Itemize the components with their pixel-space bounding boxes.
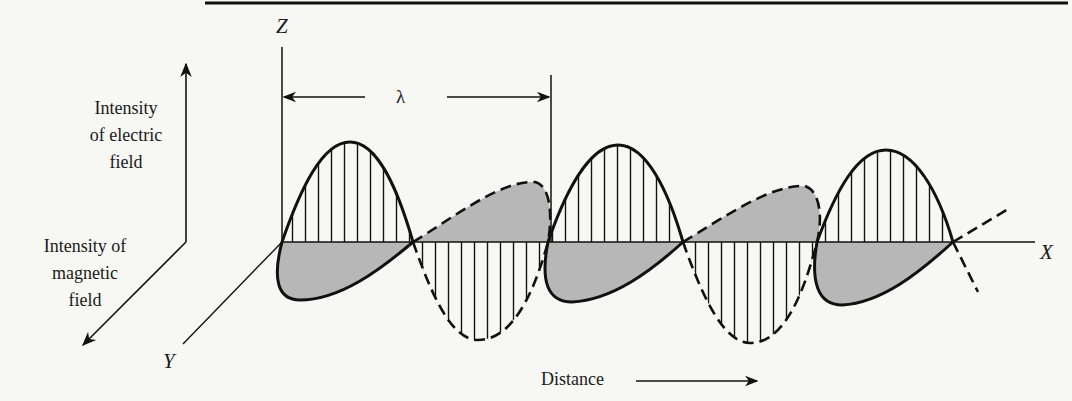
electric-label-line-2: of electric bbox=[76, 122, 176, 149]
electric-label-line-1: Intensity bbox=[76, 95, 176, 122]
magnetic-label-line-1: Intensity of bbox=[14, 233, 156, 260]
magnetic-field-label: Intensity of magnetic field bbox=[14, 233, 156, 314]
y-axis-label: Y bbox=[163, 349, 175, 374]
magnetic-lobe-4 bbox=[683, 186, 820, 242]
diagram-graphics bbox=[0, 0, 1072, 401]
x-axis-label: X bbox=[1040, 240, 1053, 265]
magnetic-lobe-2 bbox=[413, 182, 550, 242]
magnetic-lobe-1 bbox=[277, 242, 413, 300]
magnetic-lobe-5 bbox=[815, 242, 953, 305]
y-axis-line bbox=[183, 242, 282, 344]
magnetic-label-line-3: field bbox=[14, 287, 156, 314]
electric-label-line-3: field bbox=[76, 149, 176, 176]
magnetic-label-line-2: magnetic bbox=[14, 260, 156, 287]
wavelength-label: λ bbox=[396, 86, 405, 108]
distance-label: Distance bbox=[541, 369, 604, 390]
z-axis-label: Z bbox=[276, 14, 288, 39]
em-wave-diagram: Intensity of electric field Intensity of… bbox=[0, 0, 1072, 401]
magnetic-lobe-3 bbox=[545, 242, 683, 302]
electric-field-label: Intensity of electric field bbox=[76, 95, 176, 176]
